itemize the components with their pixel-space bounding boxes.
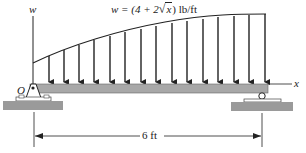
load-equation: w = (4 + 2√x) lb/ft bbox=[111, 2, 197, 17]
beam bbox=[30, 84, 268, 93]
x-axis-label: x bbox=[294, 77, 299, 89]
span-label: 6 ft bbox=[142, 129, 157, 141]
w-axis-label: w bbox=[29, 3, 36, 15]
origin-label: O bbox=[17, 84, 25, 96]
load-equation-suffix: ) lb/ft bbox=[172, 3, 197, 15]
load-curve bbox=[33, 14, 266, 63]
roller-support bbox=[231, 93, 293, 111]
load-equation-prefix: w = (4 + 2 bbox=[111, 3, 159, 15]
load-arrows bbox=[49, 14, 265, 82]
